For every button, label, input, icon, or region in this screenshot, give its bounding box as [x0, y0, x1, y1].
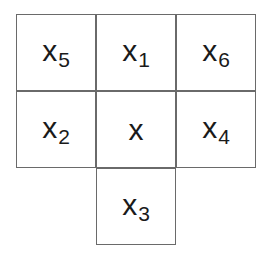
cell-x5: x5 [16, 14, 96, 91]
cell-x-center: x [96, 91, 176, 168]
cell-x1: x1 [96, 14, 176, 91]
cell-x3: x3 [96, 168, 176, 245]
cell-x6: x6 [176, 14, 256, 91]
cell-x2: x2 [16, 91, 96, 168]
cell-x4: x4 [176, 91, 256, 168]
